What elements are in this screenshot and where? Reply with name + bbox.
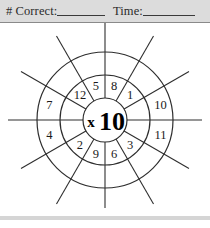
wheel-sector-number[interactable]: 1: [127, 88, 133, 102]
time-field: Time:: [113, 5, 195, 18]
center-number-label: 10: [99, 107, 125, 136]
wheel-sector-number[interactable]: 11: [155, 128, 167, 142]
correct-field: # Correct:: [6, 5, 105, 18]
wheel-sector-number[interactable]: 12: [74, 88, 87, 102]
wheel-spoke: [116, 36, 154, 101]
worksheet-page: # Correct: Time: 811011369247125 x 10: [0, 0, 210, 228]
center-operator-label: x: [87, 114, 95, 130]
wheel-sector-number[interactable]: 2: [77, 138, 83, 152]
worksheet-header: # Correct: Time:: [0, 0, 210, 23]
correct-label: # Correct:: [6, 4, 57, 18]
wheel-diagram: 811011369247125 x 10: [0, 23, 210, 208]
footer-separator-rule: [0, 216, 210, 220]
multiplication-wheel: 811011369247125 x 10: [0, 23, 210, 208]
wheel-sector-number[interactable]: 6: [111, 147, 117, 161]
wheel-spoke: [116, 139, 154, 204]
wheel-sector-number[interactable]: 9: [93, 147, 99, 161]
wheel-sector-number[interactable]: 4: [46, 128, 53, 142]
wheel-spoke: [57, 139, 95, 204]
correct-blank-input[interactable]: [57, 15, 105, 16]
wheel-sector-number[interactable]: 5: [93, 79, 99, 93]
time-label: Time:: [113, 4, 143, 18]
wheel-sector-number[interactable]: 3: [127, 138, 133, 152]
wheel-sector-number[interactable]: 10: [154, 98, 167, 112]
time-blank-input[interactable]: [143, 15, 195, 16]
wheel-sector-number[interactable]: 7: [46, 98, 52, 112]
wheel-sector-number[interactable]: 8: [111, 79, 117, 93]
